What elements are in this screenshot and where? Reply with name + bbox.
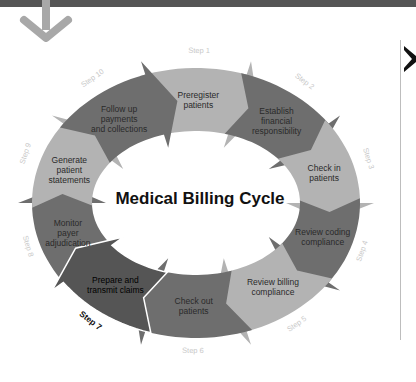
step-4-number: Step 4 <box>354 239 370 262</box>
step-9-number: Step 9 <box>18 142 34 165</box>
step-5-number: Step 5 <box>285 314 308 334</box>
step-3-number: Step 3 <box>361 147 376 170</box>
step-6-number: Step 6 <box>182 346 204 355</box>
diagram-title: Medical Billing Cycle <box>115 189 284 208</box>
step-6-label: Check outpatients <box>175 296 214 316</box>
step-5-label: Review billingcompliance <box>247 277 299 297</box>
step-4-label: Review codingcompliance <box>295 227 351 247</box>
billing-cycle-diagram: PreregisterpatientsStep 1Establishfinanc… <box>0 0 416 382</box>
step-8-number: Step 8 <box>21 234 36 257</box>
step-3-label: Check inpatients <box>308 163 341 183</box>
step-2-number: Step 2 <box>293 71 316 91</box>
step-10-number: Step 10 <box>79 67 105 89</box>
step-7-label: Prepare andtransmit claims <box>87 275 144 295</box>
step-1-number: Step 1 <box>188 46 210 55</box>
step-1-label: Preregisterpatients <box>178 90 220 110</box>
